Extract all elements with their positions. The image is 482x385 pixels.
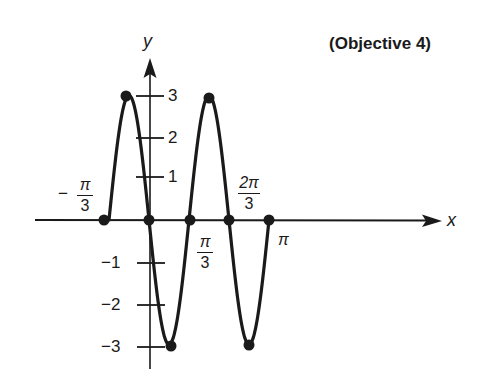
fraction-denominator: 3 bbox=[197, 253, 213, 271]
fraction-denominator: 3 bbox=[77, 196, 93, 214]
y-tick-label-neg1: −1 bbox=[101, 254, 120, 271]
x-tick-label-neg-pi-over-3: π 3 bbox=[77, 177, 93, 214]
x-tick-label-pi-over-3: π 3 bbox=[197, 234, 213, 271]
y-tick-label-1: 1 bbox=[168, 168, 177, 185]
fraction-numerator: 2π bbox=[238, 175, 260, 194]
y-tick-label-2: 2 bbox=[168, 129, 177, 146]
fraction-numerator: π bbox=[77, 177, 93, 196]
fraction-numerator: π bbox=[197, 234, 213, 253]
y-tick-label-neg3: −3 bbox=[101, 338, 120, 355]
fraction-denominator: 3 bbox=[238, 194, 260, 212]
x-axis-label: x bbox=[447, 211, 456, 229]
y-tick-label-neg2: −2 bbox=[101, 296, 120, 313]
x-tick-label-neg-sign: − bbox=[58, 184, 68, 204]
x-tick-label-pi: π bbox=[278, 232, 289, 248]
y-tick-label-3: 3 bbox=[168, 87, 177, 104]
y-axis-label: y bbox=[143, 32, 152, 50]
chart-title: (Objective 4) bbox=[329, 34, 431, 54]
x-tick-label-2pi-over-3: 2π 3 bbox=[238, 175, 260, 212]
